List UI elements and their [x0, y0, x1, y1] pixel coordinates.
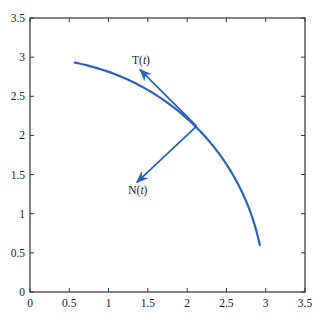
x-tick-label: 2: [184, 297, 190, 309]
axis-tick-labels: 00.511.522.533.500.511.522.533.5: [11, 12, 313, 309]
x-tick-label: 0.5: [62, 297, 77, 309]
x-tick-label: 1: [106, 297, 112, 309]
y-tick-label: 0.5: [11, 247, 26, 259]
normal-label: N(t): [128, 184, 147, 197]
tangent-label: T(t): [132, 54, 150, 67]
y-tick-label: 2: [19, 129, 25, 141]
chart: 00.511.522.533.500.511.522.533.5 T(t)N(t…: [0, 0, 316, 315]
y-tick-label: 1.5: [11, 169, 26, 181]
axis-ticks: [30, 18, 305, 292]
x-tick-label: 0: [27, 297, 33, 309]
y-tick-label: 3.5: [11, 12, 26, 24]
y-tick-label: 1: [19, 208, 25, 220]
plot-frame: [30, 18, 305, 292]
y-tick-label: 2.5: [11, 90, 26, 102]
tangent-arrow: [140, 70, 197, 126]
vectors: T(t)N(t): [128, 54, 196, 198]
normal-vector: N(t): [128, 126, 196, 197]
x-tick-label: 3: [263, 297, 269, 309]
x-tick-label: 1.5: [141, 297, 156, 309]
x-tick-label: 3.5: [298, 297, 313, 309]
y-tick-label: 3: [19, 51, 25, 63]
tangent-vector: T(t): [132, 54, 197, 126]
y-tick-label: 0: [19, 286, 25, 298]
x-tick-label: 2.5: [219, 297, 234, 309]
normal-arrow: [137, 126, 197, 182]
